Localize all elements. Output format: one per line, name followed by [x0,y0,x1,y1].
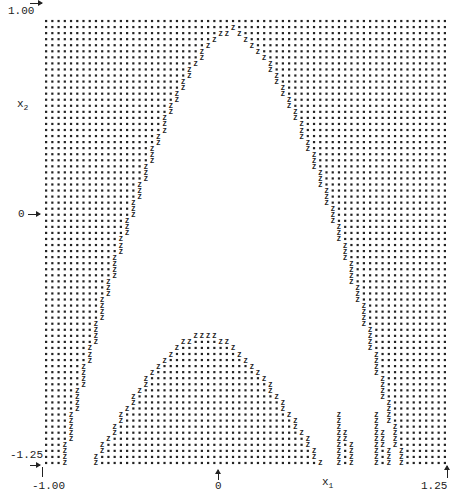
region-dot [419,117,421,119]
region-dot [406,238,408,240]
region-dot [126,111,128,113]
region-dot [350,189,352,191]
region-dot [431,238,433,240]
region-dot [170,99,172,101]
region-dot [114,177,116,179]
region-dot [64,317,66,319]
region-dot [406,401,408,403]
region-dot [338,214,340,216]
region-dot [182,432,184,434]
region-dot [294,462,296,464]
region-dot [95,68,97,70]
region-dot [45,450,47,452]
region-dot [195,377,197,379]
region-dot [70,208,72,210]
region-dot [431,44,433,46]
region-dot [332,111,334,113]
region-dot [138,56,140,58]
region-dot [251,456,253,458]
region-dot [132,147,134,149]
y-tick-label-zero: 0 [18,208,25,220]
region-dot [70,56,72,58]
region-dot [114,438,116,440]
region-dot [188,359,190,361]
region-dot [51,377,53,379]
region-dot [325,68,327,70]
region-dot [406,335,408,337]
region-dot [57,371,59,373]
region-dot [238,456,240,458]
region-dot [176,359,178,361]
region-dot [394,407,396,409]
region-dot [57,359,59,361]
region-dot [357,20,359,22]
region-dot [425,74,427,76]
region-dot [406,38,408,40]
region-dot [425,250,427,252]
region-dot [406,147,408,149]
region-dot [89,214,91,216]
boundary-marker: Z [299,133,303,141]
region-dot [207,32,209,34]
region-dot [120,80,122,82]
region-dot [232,401,234,403]
region-dot [51,226,53,228]
region-dot [51,99,53,101]
region-dot [57,129,59,131]
region-dot [394,389,396,391]
region-dot [126,189,128,191]
region-dot [369,147,371,149]
region-dot [381,286,383,288]
region-dot [238,426,240,428]
y-axis-name: x [17,98,24,110]
region-dot [444,444,446,446]
boundary-marker: Z [63,459,67,467]
region-dot [357,195,359,197]
region-dot [375,68,377,70]
region-dot [444,371,446,373]
region-dot [170,32,172,34]
region-dot [89,74,91,76]
region-dot [363,202,365,204]
region-dot [388,317,390,319]
region-dot [444,256,446,258]
region-dot [369,62,371,64]
region-dot [188,347,190,349]
boundary-marker: Z [144,175,148,183]
region-dot [151,87,153,89]
region-dot [344,20,346,22]
region-dot [419,426,421,428]
region-dot [300,105,302,107]
region-dot [413,462,415,464]
region-dot [406,389,408,391]
region-dot [325,62,327,64]
region-dot [338,87,340,89]
region-dot [76,153,78,155]
boundary-marker: Z [380,441,384,449]
region-dot [45,250,47,252]
region-dot [300,87,302,89]
region-dot [307,105,309,107]
region-dot [107,32,109,34]
region-dot [195,407,197,409]
region-dot [425,256,427,258]
region-dot [438,450,440,452]
region-dot [313,62,315,64]
region-dot [120,183,122,185]
region-dot [89,129,91,131]
region-dot [431,129,433,131]
region-dot [325,44,327,46]
region-dot [419,232,421,234]
region-dot [381,371,383,373]
region-dot [394,256,396,258]
region-dot [114,80,116,82]
region-dot [344,208,346,210]
region-dot [114,32,116,34]
region-dot [425,105,427,107]
region-dot [219,389,221,391]
region-dot [45,371,47,373]
region-dot [300,80,302,82]
region-dot [138,165,140,167]
region-dot [363,183,365,185]
region-dot [101,202,103,204]
